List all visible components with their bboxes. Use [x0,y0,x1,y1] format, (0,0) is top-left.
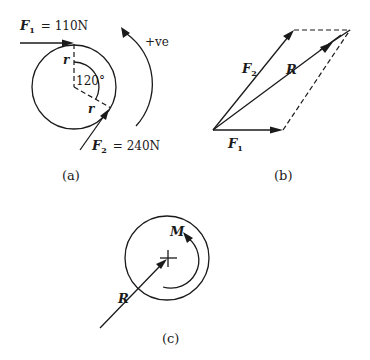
b-dashed-right [283,30,350,130]
b-resultant-label: R [285,62,297,77]
b-force2-arrowhead [283,30,294,41]
radius-label-lower: r [88,102,96,116]
force2-value: = 240N [113,139,160,153]
b-force1-subscript: 1 [237,143,243,153]
positive-direction-label: +ve [145,35,169,49]
radius-label-top: r [63,53,71,67]
angle-label: 120° [76,74,105,88]
panel-b: F2 R F1 (b) [213,30,350,183]
b-force2-label: F2 [241,61,257,78]
panel-a: F1= 110N r r 120° F2= 240N +ve (a) [19,18,169,183]
force1-value: = 110N [41,19,88,33]
positive-direction-arrowhead [121,27,130,38]
c-resultant-label: R [117,291,129,306]
force2-subscript: 2 [101,145,107,155]
b-force2-subscript: 2 [251,68,257,78]
b-force1-arrowhead [270,127,283,134]
figure-canvas: F1= 110N r r 120° F2= 240N +ve (a) [0,0,370,360]
b-resultant-tip [320,30,350,50]
force2-label: F2= 240N [91,138,160,155]
panel-c: R M (c) [100,216,209,346]
force1-label: F1= 110N [19,18,88,35]
caption-b: (b) [274,168,292,183]
force1-subscript: 1 [29,25,35,35]
c-moment-label: M [169,224,185,239]
caption-a: (a) [62,168,80,183]
b-force2-line [213,37,288,130]
caption-c: (c) [162,331,179,346]
b-force1-label: F1 [227,136,243,153]
b-resultant-arrowhead [320,42,333,53]
